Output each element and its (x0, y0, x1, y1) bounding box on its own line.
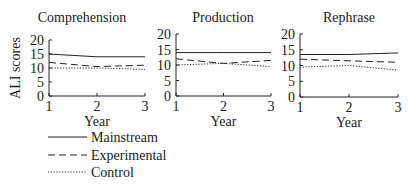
y-tick-label: 15 (281, 43, 295, 58)
series-line-mainstream (300, 53, 398, 55)
series-line-control (300, 66, 398, 71)
y-tick-label: 0 (164, 89, 171, 104)
y-tick-label: 20 (30, 33, 44, 48)
series-line-experimental (300, 59, 398, 62)
x-tick-label: 1 (173, 99, 180, 114)
legend-label-mainstream: Mainstream (91, 130, 158, 145)
y-tick-label: 0 (37, 89, 44, 104)
x-tick-label: 3 (395, 100, 402, 115)
y-axis-label: ALI scores (8, 37, 23, 99)
series-line-experimental (49, 62, 145, 66)
chart: Comprehension05101520123YearProduction05… (0, 0, 409, 189)
y-tick-label: 5 (164, 74, 171, 89)
y-tick-label: 20 (157, 27, 171, 42)
x-axis-label: Year (84, 114, 110, 129)
x-tick-label: 2 (94, 99, 101, 114)
x-axis-label: Year (336, 115, 362, 130)
y-tick-label: 10 (281, 59, 295, 74)
x-tick-label: 3 (142, 99, 149, 114)
y-tick-label: 15 (157, 43, 171, 58)
y-tick-label: 10 (157, 58, 171, 73)
series-line-experimental (176, 59, 271, 64)
series-line-mainstream (49, 54, 145, 57)
x-tick-label: 2 (346, 100, 353, 115)
y-tick-label: 10 (30, 61, 44, 76)
y-tick-label: 0 (288, 90, 295, 105)
x-tick-label: 1 (46, 99, 53, 114)
panel-title: Production (192, 10, 253, 25)
x-axis-label: Year (211, 114, 237, 129)
x-tick-label: 2 (220, 99, 227, 114)
panel-title: Comprehension (38, 10, 127, 25)
x-tick-label: 1 (297, 100, 304, 115)
panel-title: Rephrase (323, 10, 375, 25)
y-tick-label: 20 (281, 27, 295, 42)
y-tick-label: 5 (288, 74, 295, 89)
y-tick-label: 15 (30, 47, 44, 62)
series-line-control (49, 68, 145, 69)
x-tick-label: 3 (268, 99, 275, 114)
y-tick-label: 5 (37, 75, 44, 90)
legend-label-experimental: Experimental (91, 148, 167, 163)
legend-label-control: Control (91, 165, 134, 180)
